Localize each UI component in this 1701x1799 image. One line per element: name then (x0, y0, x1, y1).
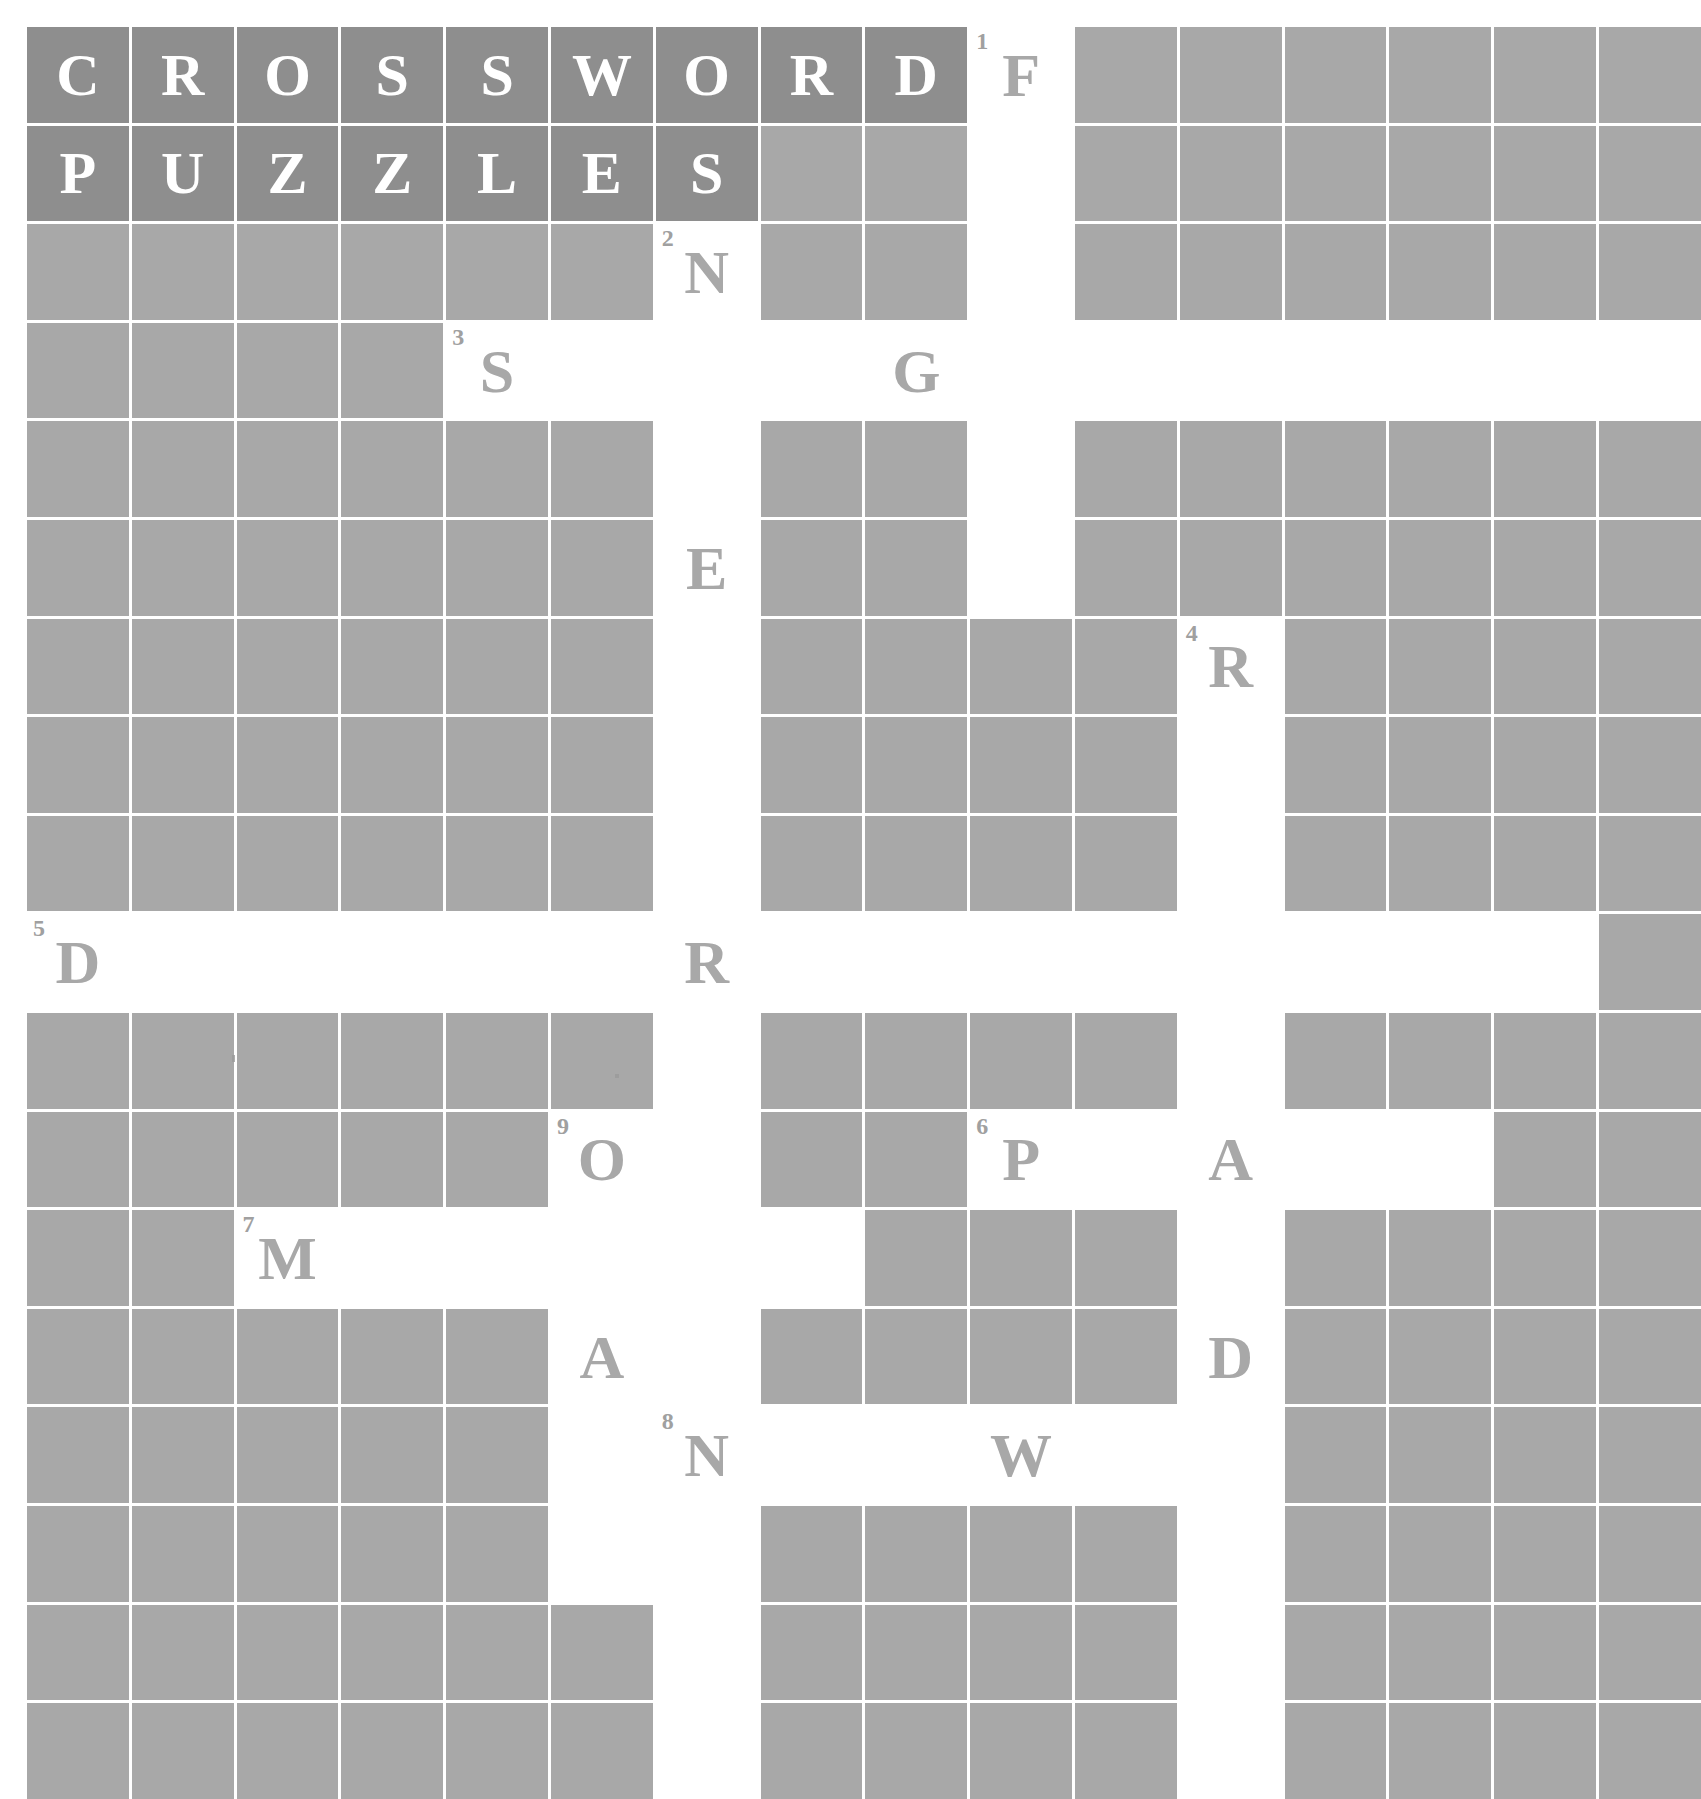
crossword-cell-open[interactable] (1180, 816, 1282, 912)
crossword-cell-blocked (1389, 1210, 1491, 1306)
crossword-cell-open[interactable] (1285, 914, 1387, 1010)
crossword-cell-open[interactable] (1285, 1112, 1387, 1208)
crossword-cell-open[interactable] (1075, 323, 1177, 419)
crossword-cell-open[interactable] (132, 914, 234, 1010)
crossword-cell-open[interactable] (1180, 717, 1282, 813)
crossword-cell-open[interactable] (1599, 323, 1701, 419)
crossword-cell-open[interactable]: G (865, 323, 967, 419)
crossword-cell-open[interactable] (1494, 914, 1596, 1010)
crossword-cell-open[interactable] (1180, 1703, 1282, 1799)
crossword-cell-blocked (132, 1506, 234, 1602)
crossword-cell-open[interactable] (970, 323, 1072, 419)
title-cell: P (27, 126, 129, 222)
crossword-cell-open[interactable]: 3S (446, 323, 548, 419)
crossword-cell-open[interactable] (656, 816, 758, 912)
crossword-cell-open[interactable]: 4R (1180, 619, 1282, 715)
crossword-cell-open[interactable] (761, 1407, 863, 1503)
crossword-cell-open[interactable]: R (656, 914, 758, 1010)
crossword-cell-open[interactable] (1180, 1605, 1282, 1701)
title-cell: R (132, 27, 234, 123)
crossword-cell-open[interactable] (1180, 1407, 1282, 1503)
crossword-cell-open[interactable] (341, 1210, 443, 1306)
crossword-cell-open[interactable]: E (656, 520, 758, 616)
title-cell: O (237, 27, 339, 123)
crossword-cell-open[interactable] (1389, 323, 1491, 419)
title-cell: S (656, 126, 758, 222)
crossword-cell-open[interactable] (1180, 914, 1282, 1010)
crossword-cell-open[interactable] (446, 1210, 548, 1306)
crossword-cell-open[interactable]: 2N (656, 224, 758, 320)
crossword-cell-open[interactable] (446, 914, 548, 1010)
crossword-cell-blocked (132, 1407, 234, 1503)
crossword-cell-open[interactable] (341, 914, 443, 1010)
crossword-cell-open[interactable] (656, 1506, 758, 1602)
crossword-cell-open[interactable] (761, 914, 863, 1010)
crossword-cell-open[interactable] (656, 323, 758, 419)
crossword-cell-open[interactable] (237, 914, 339, 1010)
crossword-cell-open[interactable]: A (551, 1309, 653, 1405)
crossword-cell-open[interactable] (551, 914, 653, 1010)
crossword-cell-open[interactable] (1180, 1013, 1282, 1109)
crossword-cell-open[interactable] (656, 1703, 758, 1799)
crossword-grid[interactable]: CROSSWORD1FPUZZLES2N3SGE4R5DR9O6PA7MAD8N… (27, 27, 1701, 1799)
crossword-cell-open[interactable] (1075, 914, 1177, 1010)
crossword-cell-blocked (446, 717, 548, 813)
crossword-cell-open[interactable] (656, 1112, 758, 1208)
crossword-cell-blocked (970, 816, 1072, 912)
crossword-cell-open[interactable] (1389, 1112, 1491, 1208)
crossword-cell-blocked (1494, 520, 1596, 616)
crossword-cell-open[interactable]: A (1180, 1112, 1282, 1208)
crossword-cell-open[interactable]: 6P (970, 1112, 1072, 1208)
crossword-cell-open[interactable] (1180, 1210, 1282, 1306)
crossword-cell-blocked (1075, 1309, 1177, 1405)
crossword-cell-open[interactable]: 1F (970, 27, 1072, 123)
crossword-cell-open[interactable] (970, 126, 1072, 222)
crossword-cell-open[interactable] (551, 1506, 653, 1602)
crossword-cell-open[interactable] (761, 323, 863, 419)
crossword-cell-open[interactable] (865, 914, 967, 1010)
crossword-cell-blocked (1599, 1407, 1701, 1503)
crossword-cell-open[interactable] (970, 421, 1072, 517)
crossword-cell-blocked (551, 717, 653, 813)
crossword-cell-open[interactable] (656, 421, 758, 517)
answer-letter: D (1208, 1326, 1253, 1388)
crossword-cell-open[interactable] (865, 1407, 967, 1503)
crossword-cell-blocked (761, 224, 863, 320)
crossword-cell-open[interactable] (970, 224, 1072, 320)
crossword-cell-open[interactable] (1075, 1112, 1177, 1208)
crossword-cell-open[interactable]: 9O (551, 1112, 653, 1208)
crossword-cell-open[interactable] (551, 1407, 653, 1503)
crossword-cell-open[interactable] (970, 520, 1072, 616)
title-cell: Z (341, 126, 443, 222)
crossword-cell-blocked (446, 1013, 548, 1109)
crossword-cell-open[interactable] (1180, 1506, 1282, 1602)
crossword-cell-open[interactable] (761, 1210, 863, 1306)
crossword-cell-blocked (1285, 1407, 1387, 1503)
crossword-cell-open[interactable] (551, 1210, 653, 1306)
crossword-cell-open[interactable] (656, 1605, 758, 1701)
crossword-cell-open[interactable] (656, 717, 758, 813)
crossword-cell-blocked (132, 717, 234, 813)
crossword-cell-open[interactable] (656, 1309, 758, 1405)
crossword-cell-open[interactable] (1075, 1407, 1177, 1503)
answer-letter: G (892, 340, 940, 402)
crossword-cell-blocked (1389, 1605, 1491, 1701)
crossword-cell-open[interactable] (656, 1013, 758, 1109)
crossword-cell-open[interactable]: D (1180, 1309, 1282, 1405)
answer-letter: S (480, 340, 514, 402)
crossword-cell-open[interactable] (1494, 323, 1596, 419)
crossword-cell-open[interactable]: 8N (656, 1407, 758, 1503)
crossword-cell-open[interactable] (1389, 914, 1491, 1010)
crossword-cell-open[interactable] (656, 619, 758, 715)
crossword-cell-open[interactable] (1180, 323, 1282, 419)
crossword-cell-open[interactable]: 7M (237, 1210, 339, 1306)
crossword-cell-blocked (27, 717, 129, 813)
crossword-cell-blocked (27, 520, 129, 616)
crossword-cell-blocked (132, 816, 234, 912)
crossword-cell-open[interactable] (970, 914, 1072, 1010)
crossword-cell-open[interactable]: W (970, 1407, 1072, 1503)
crossword-cell-open[interactable] (656, 1210, 758, 1306)
crossword-cell-open[interactable] (551, 323, 653, 419)
crossword-cell-open[interactable]: 5D (27, 914, 129, 1010)
crossword-cell-open[interactable] (1285, 323, 1387, 419)
